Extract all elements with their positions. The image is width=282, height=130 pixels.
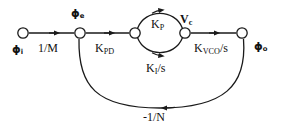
node-label-phi-i-sub: i: [21, 48, 23, 56]
node-phi-e: [75, 28, 85, 38]
node-label-v-c-base: V: [180, 12, 189, 26]
node-split: [130, 28, 140, 38]
edge-label-k-pd: KPD: [95, 42, 114, 56]
edge-label-1-over-m-base: 1/M: [38, 41, 58, 55]
edge-label-k-vco-s-base: K: [194, 41, 203, 55]
edge-line-k-i-s: [138, 38, 183, 53]
node-label-phi-o-sub: o: [263, 45, 268, 53]
node-label-phi-e-sub: e: [80, 12, 85, 20]
node-label-phi-e-base: ϕ: [71, 7, 80, 20]
edge-label-k-p-base: K: [151, 17, 160, 31]
node-label-v-c-sub: c: [189, 18, 193, 27]
edge-arrow-minus-1-over-n: [164, 107, 175, 108]
edge-label-k-i-s-tail: /s: [157, 61, 165, 75]
edge-label-k-pd-sub: PD: [104, 47, 114, 56]
node-phi-o: [237, 28, 247, 38]
edge-label-k-i-s: KI/s: [146, 62, 165, 76]
edge-label-minus-1-over-n: -1/N: [143, 111, 165, 125]
edge-label-k-i-s-base: K: [146, 61, 155, 75]
node-label-phi-i: ϕi: [12, 44, 23, 56]
node-v-c: [180, 28, 190, 38]
node-label-phi-o-base: ϕ: [254, 40, 263, 53]
edge-label-minus-1-over-n-base: -1/N: [143, 110, 165, 124]
node-label-v-c: Vc: [180, 13, 192, 27]
node-phi-i: [18, 28, 28, 38]
edge-label-k-vco-s-sub: VCO: [203, 47, 220, 56]
node-label-phi-o: ϕo: [254, 41, 267, 53]
edge-label-k-p: KP: [151, 18, 164, 32]
node-label-phi-e: ϕe: [71, 8, 84, 20]
signal-flow-diagram: ϕi ϕe Vc ϕo 1/M KPD KP KI/s KVCO/s -1/N: [0, 0, 282, 130]
edge-label-k-vco-s: KVCO/s: [194, 42, 228, 56]
edge-label-k-vco-s-tail: /s: [220, 41, 228, 55]
edge-arrow-k-p: [152, 10, 162, 13]
edge-label-k-p-sub: P: [160, 23, 165, 32]
edge-label-k-pd-base: K: [95, 41, 104, 55]
node-label-phi-i-base: ϕ: [12, 43, 21, 56]
diagram-canvas: [0, 0, 282, 130]
edge-arrow-k-i-s: [152, 53, 162, 56]
edge-label-1-over-m: 1/M: [38, 42, 58, 56]
edge-lines: [29, 10, 244, 108]
